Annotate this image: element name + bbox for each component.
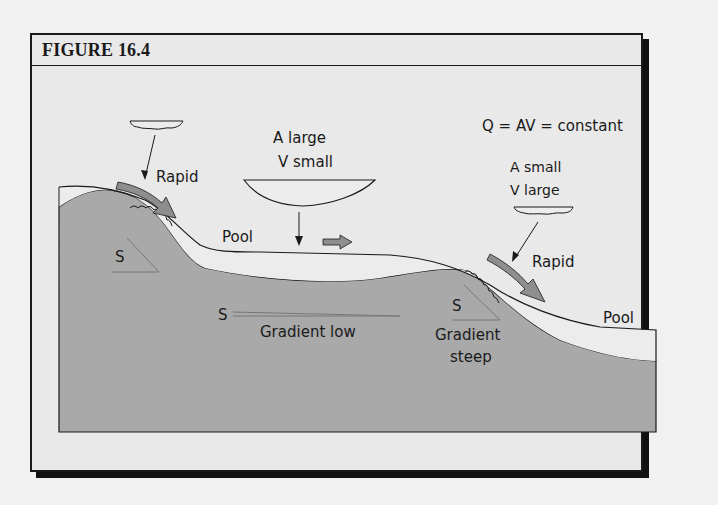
cross-section-rapid-right bbox=[514, 207, 573, 214]
label-gradient-steep-1: Gradient bbox=[435, 326, 500, 344]
river-profile-diagram: Q = AV = constant A large V small A smal… bbox=[0, 0, 718, 505]
cross-section-rapid-left bbox=[130, 121, 183, 129]
stream-bed bbox=[59, 190, 656, 432]
label-gradient-low: Gradient low bbox=[260, 323, 356, 341]
label-pool-middle: Pool bbox=[222, 228, 253, 246]
flow-arrow-middle bbox=[323, 235, 352, 249]
label-a-large: A large bbox=[273, 129, 326, 147]
label-a-small: A small bbox=[510, 159, 561, 175]
label-v-small: V small bbox=[278, 153, 333, 171]
label-v-large: V large bbox=[510, 182, 560, 198]
cross-section-pool bbox=[244, 180, 375, 206]
label-s-middle: S bbox=[218, 306, 228, 324]
label-s-left: S bbox=[115, 248, 125, 266]
label-rapid-right: Rapid bbox=[532, 253, 575, 271]
label-pool-right: Pool bbox=[603, 309, 634, 327]
equation-label: Q = AV = constant bbox=[482, 117, 623, 135]
label-s-right: S bbox=[452, 297, 462, 315]
label-rapid-left: Rapid bbox=[156, 168, 199, 186]
label-gradient-steep-2: steep bbox=[450, 348, 492, 366]
